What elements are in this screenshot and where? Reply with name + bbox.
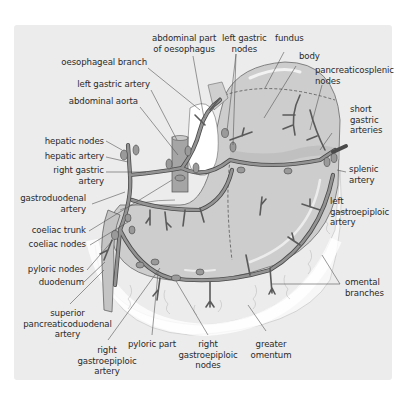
label-fundus: fundus: [275, 33, 304, 44]
label-omental-branches: omental branches: [345, 277, 384, 298]
label-left-gastric-nodes: left gastric nodes: [222, 33, 267, 54]
label-superior-pancreaticoduodenal-artery: superior pancreaticoduodenal artery: [20, 308, 115, 340]
label-gastroduodenal-artery: gastroduodenal artery: [4, 193, 86, 214]
label-coeliac-trunk: coeliac trunk: [4, 225, 86, 236]
label-short-gastric-arteries: short gastric arteries: [350, 104, 382, 136]
label-abdominal-aorta: abdominal aorta: [50, 96, 138, 107]
label-splenic-artery: splenic artery: [349, 164, 378, 185]
label-duodenum: duodenum: [4, 277, 84, 288]
label-hepatic-nodes: hepatic nodes: [20, 136, 104, 147]
label-pancreaticosplenic-nodes: pancreaticosplenic nodes: [315, 65, 394, 86]
label-abdominal-part-of-oesophagus: abdominal part of oesophagus: [152, 33, 216, 54]
label-left-gastroepiploic-artery: left gastroepiploic artery: [330, 196, 389, 228]
label-hepatic-artery: hepatic artery: [20, 151, 104, 162]
label-greater-omentum: greater omentum: [245, 339, 297, 360]
label-right-gastroepiploic-artery: right gastroepiploic artery: [74, 345, 140, 377]
label-right-gastric-artery: right gastric artery: [20, 165, 104, 186]
label-body: body: [299, 51, 320, 62]
label-pyloric-nodes: pyloric nodes: [4, 264, 84, 275]
label-right-gastroepiploic-nodes: right gastroepiploic nodes: [175, 339, 241, 371]
label-coeliac-nodes: coeliac nodes: [4, 239, 86, 250]
label-oesophageal-branch: oesophageal branch: [57, 57, 147, 68]
label-left-gastric-artery: left gastric artery: [60, 79, 150, 90]
